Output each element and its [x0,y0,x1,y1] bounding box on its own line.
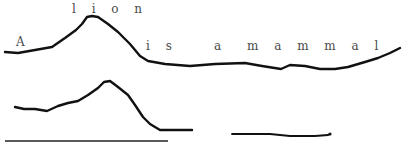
word-lion: l i o n [72,3,148,15]
word-a-article: a [214,40,227,52]
word-is: i s [146,40,178,52]
lower-pitch-contour [15,81,192,130]
baseline-end-dot [328,132,331,135]
intonation-diagram: A l i o n i s a m a m m a l [0,0,404,149]
short-baseline [232,134,330,136]
contour-canvas [0,0,404,149]
word-a: A [16,36,31,48]
word-mammal: m a m m a l [247,40,384,52]
